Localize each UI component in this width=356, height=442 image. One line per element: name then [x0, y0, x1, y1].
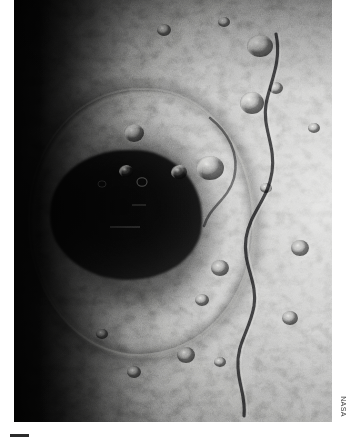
figure-page: NASA — [0, 0, 356, 442]
photo-credit: NASA — [332, 386, 354, 426]
photo-credit-label: NASA — [339, 396, 346, 417]
planetary-surface-photograph — [14, 0, 332, 422]
scale-bar — [10, 434, 29, 437]
page-margin-left — [0, 0, 14, 442]
basin-floor — [50, 150, 202, 280]
page-margin-right — [332, 0, 356, 442]
page-margin-bottom — [0, 422, 356, 442]
